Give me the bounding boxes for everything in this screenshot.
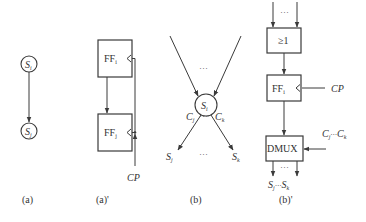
select-label: Cj···Ck [322,128,347,140]
caption-b-prime: (b)' [279,194,293,206]
flipflop-ffi: FFi [98,40,132,77]
state-diagram-figure: Si Sj (a) FFi FFj CP (a)' ··· [0,0,366,222]
outputs-label: Sj···Sk [268,179,289,191]
cp-label: CP [331,83,344,94]
junction-dot [134,131,137,134]
panel-b-prime: ··· ≥1 FFi CP DMUX Cj···Ck ··· Sj···Sk (… [266,2,347,206]
panel-a-prime: FFi FFj CP (a)' [96,40,140,206]
or-gate: ≥1 [267,28,301,53]
state-node-sj: Sj [21,123,37,139]
incoming-arrow [214,36,241,96]
state-node-si: Si [21,56,37,72]
svg-text:Sk: Sk [232,151,240,163]
ellipsis: ··· [199,63,208,73]
caption-a-prime: (a)' [96,194,109,206]
svg-text:DMUX: DMUX [267,143,298,154]
panel-b: ··· Si Cj ··· Ck Sj ··· Sk (b) [166,36,241,206]
ellipsis: ··· [280,7,289,17]
panel-a: Si Sj (a) [21,56,37,206]
svg-text:Sj: Sj [166,151,173,163]
incoming-arrow [170,36,198,96]
flipflop-ffj: FFj [98,114,132,151]
cp-label: CP [127,172,140,183]
ellipsis: ··· [199,149,208,159]
ellipsis: ··· [199,111,208,121]
caption-a: (a) [22,194,33,206]
ellipsis: ··· [280,162,289,172]
svg-text:≥1: ≥1 [278,35,289,46]
dmux-block: DMUX [266,136,303,161]
caption-b: (b) [190,194,202,206]
svg-text:Cj: Cj [186,111,195,123]
flipflop-ffi: FFi [267,75,301,101]
svg-text:Ck: Ck [215,111,225,123]
